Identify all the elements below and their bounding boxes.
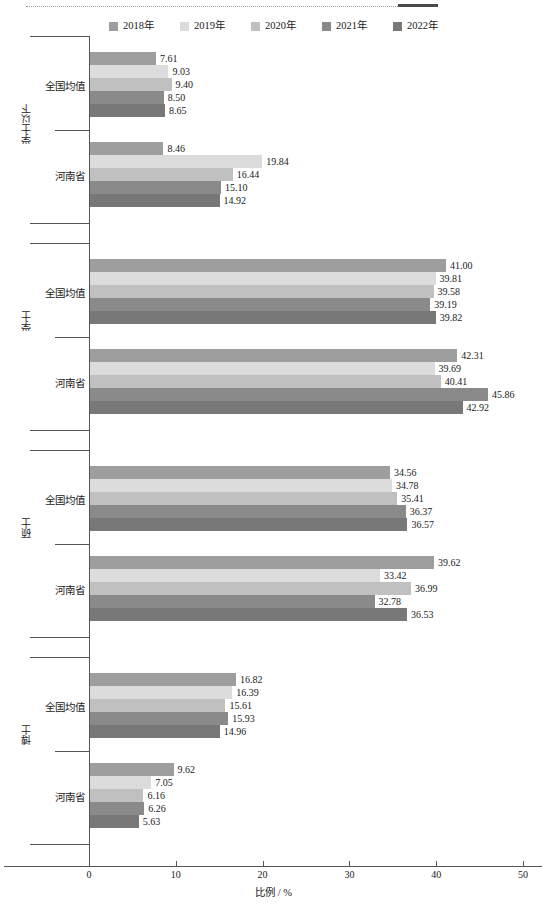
bar-value-label: 19.84 xyxy=(266,156,289,167)
bar xyxy=(90,52,156,65)
x-axis-title: 比例 / % xyxy=(0,884,547,899)
bar-value-label: 6.26 xyxy=(148,803,166,814)
subcategory-separator xyxy=(55,751,90,752)
bar xyxy=(90,65,168,78)
group-label: 硕士 xyxy=(22,518,38,538)
x-axis-tick-label: 40 xyxy=(431,869,441,880)
x-axis-tick-label: 10 xyxy=(171,869,181,880)
bar xyxy=(90,582,411,595)
bar-value-label: 16.44 xyxy=(237,169,260,180)
group-separator xyxy=(30,243,90,244)
bar xyxy=(90,388,488,401)
bar-value-label: 35.41 xyxy=(401,493,424,504)
category-label: 全国均值 xyxy=(38,492,85,507)
bar-value-label: 7.05 xyxy=(155,777,173,788)
bar-value-label: 39.58 xyxy=(438,286,461,297)
bar xyxy=(90,272,436,285)
bar xyxy=(90,285,434,298)
bar-value-label: 36.53 xyxy=(411,609,434,620)
x-axis-tick-label: 20 xyxy=(258,869,268,880)
group-label: 学士 xyxy=(22,311,38,331)
subcategory-separator xyxy=(55,130,90,131)
bar xyxy=(90,776,151,789)
subcategory-separator xyxy=(55,337,90,338)
bar xyxy=(90,673,236,686)
bar-value-label: 41.00 xyxy=(450,260,473,271)
bar-value-label: 42.92 xyxy=(467,402,490,413)
bar-value-label: 39.81 xyxy=(440,273,463,284)
bar xyxy=(90,194,220,207)
bar xyxy=(90,492,397,505)
bar-value-label: 9.03 xyxy=(172,66,190,77)
bar xyxy=(90,401,463,414)
bar-value-label: 15.93 xyxy=(232,713,255,724)
category-label: 全国均值 xyxy=(38,699,85,714)
x-axis-tick xyxy=(436,861,437,866)
group-separator xyxy=(30,637,90,638)
bar xyxy=(90,78,172,91)
bar xyxy=(90,181,221,194)
bar xyxy=(90,699,225,712)
bar-value-label: 8.50 xyxy=(168,92,186,103)
bar-value-label: 15.10 xyxy=(225,182,248,193)
bar-value-label: 34.56 xyxy=(394,467,417,478)
bar xyxy=(90,505,406,518)
bar-value-label: 16.82 xyxy=(240,674,263,685)
bar xyxy=(90,362,435,375)
bar xyxy=(90,595,375,608)
group-separator xyxy=(30,36,90,37)
category-label: 河南省 xyxy=(38,789,85,804)
category-label: 全国均值 xyxy=(38,78,85,93)
bar-value-label: 39.69 xyxy=(439,363,462,374)
bar xyxy=(90,569,380,582)
bar-value-label: 36.37 xyxy=(410,506,433,517)
value-axis-line xyxy=(4,866,542,867)
bar-value-label: 45.86 xyxy=(492,389,515,400)
x-axis-tick-label: 30 xyxy=(344,869,354,880)
x-axis-tick-label: 50 xyxy=(518,869,528,880)
category-label: 河南省 xyxy=(38,168,85,183)
bar xyxy=(90,556,434,569)
chart-plot-area: 比例 / % 学士以下全国均值7.619.039.408.508.65河南省8.… xyxy=(0,0,547,913)
bar-value-label: 36.57 xyxy=(411,519,434,530)
category-label: 河南省 xyxy=(38,582,85,597)
bar xyxy=(90,763,174,776)
bar xyxy=(90,725,220,738)
bar xyxy=(90,311,436,324)
bar xyxy=(90,789,143,802)
bar-value-label: 16.39 xyxy=(236,687,259,698)
bar xyxy=(90,142,163,155)
bar-value-label: 39.62 xyxy=(438,557,461,568)
x-axis-tick xyxy=(349,861,350,866)
bar xyxy=(90,259,446,272)
bar xyxy=(90,608,407,621)
bar-value-label: 42.31 xyxy=(461,350,484,361)
bar-value-label: 32.78 xyxy=(379,596,402,607)
bar-value-label: 14.92 xyxy=(224,195,247,206)
bar-value-label: 33.42 xyxy=(384,570,407,581)
category-label: 全国均值 xyxy=(38,285,85,300)
group-label: 学士以下 xyxy=(22,104,38,144)
bar-value-label: 6.16 xyxy=(147,790,165,801)
group-label: 博士 xyxy=(22,725,38,745)
bar xyxy=(90,815,139,828)
bar xyxy=(90,479,392,492)
bar-value-label: 14.96 xyxy=(224,726,247,737)
bar xyxy=(90,155,262,168)
bar-value-label: 8.46 xyxy=(167,143,185,154)
bar-value-label: 9.40 xyxy=(176,79,194,90)
group-separator xyxy=(30,223,90,224)
x-axis-tick xyxy=(176,861,177,866)
bar xyxy=(90,91,164,104)
bar xyxy=(90,712,228,725)
bar xyxy=(90,686,232,699)
bar-value-label: 8.65 xyxy=(169,105,187,116)
bar-value-label: 39.19 xyxy=(434,299,457,310)
group-separator xyxy=(30,657,90,658)
category-label: 河南省 xyxy=(38,375,85,390)
x-axis-tick xyxy=(89,861,90,866)
subcategory-separator xyxy=(55,544,90,545)
bar-value-label: 7.61 xyxy=(160,53,178,64)
bar xyxy=(90,104,165,117)
bar xyxy=(90,802,144,815)
